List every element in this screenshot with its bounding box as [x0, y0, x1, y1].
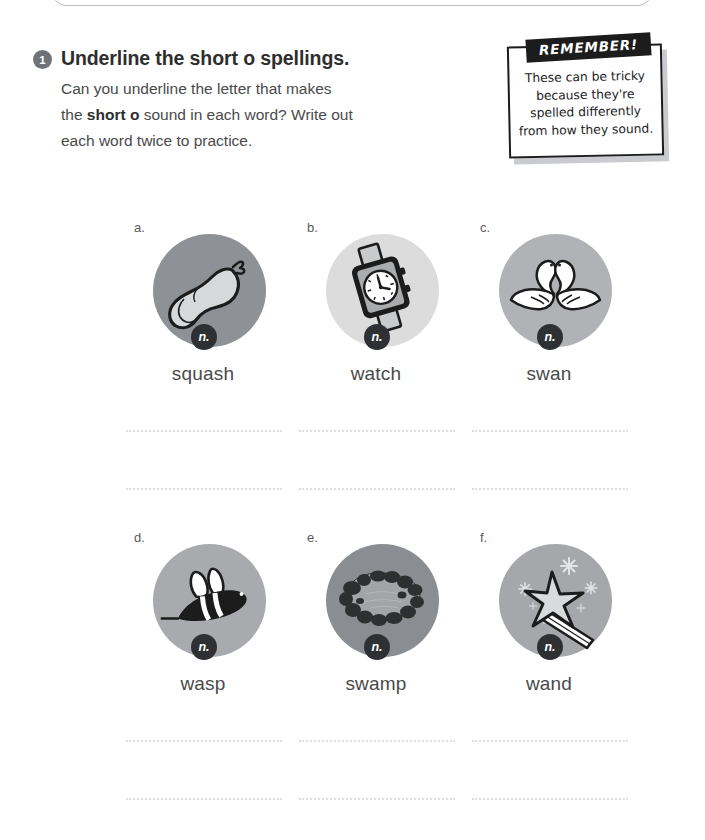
- question-number-badge: 1: [33, 50, 52, 69]
- part-of-speech-badge: n.: [537, 634, 563, 660]
- item-word-label: wasp: [103, 673, 303, 695]
- writing-line[interactable]: [299, 740, 455, 742]
- writing-lines-column-c: [472, 430, 632, 490]
- item-word-label: swan: [449, 363, 649, 385]
- item-word-label: wand: [449, 673, 649, 695]
- instruction-emphasis: short o: [87, 106, 140, 123]
- writing-line[interactable]: [126, 740, 282, 742]
- writing-line[interactable]: [472, 430, 628, 432]
- instruction-line-2-pre: the: [61, 106, 87, 123]
- page-title: Underline the short o spellings.: [61, 46, 349, 70]
- item-letter-a: a.: [134, 220, 145, 235]
- item-letter-e: e.: [307, 530, 318, 545]
- writing-lines-column-a: [126, 430, 286, 490]
- question-block: 1 Underline the short o spellings. Can y…: [33, 46, 463, 154]
- item-picture-wrap: n.: [449, 234, 649, 354]
- question-title-row: 1 Underline the short o spellings.: [33, 46, 463, 70]
- part-of-speech-badge: n.: [191, 324, 217, 350]
- item-picture-wrap: n.: [276, 544, 476, 664]
- writing-lines-column-d: [126, 740, 286, 800]
- item-letter-d: d.: [134, 530, 145, 545]
- item-picture-wrap: n.: [276, 234, 476, 354]
- item-letter-c: c.: [480, 220, 490, 235]
- writing-line[interactable]: [472, 488, 628, 490]
- writing-lines-column-b: [299, 430, 459, 490]
- writing-line[interactable]: [126, 430, 282, 432]
- part-of-speech-badge: n.: [364, 634, 390, 660]
- writing-line[interactable]: [299, 488, 455, 490]
- remember-line-1: These can be tricky: [511, 67, 658, 88]
- part-of-speech-badge: n.: [364, 324, 390, 350]
- question-instructions: Can you underline the letter that makes …: [61, 76, 463, 154]
- remember-line-4: from how they sound.: [512, 120, 659, 141]
- previous-section-box-edge: [52, 0, 652, 6]
- instruction-line-2-post: sound in each word? Write out: [139, 106, 352, 123]
- writing-line[interactable]: [299, 798, 455, 800]
- item-picture-wrap: n.: [103, 544, 303, 664]
- item-picture-wrap: n.: [449, 544, 649, 664]
- items-row-2: d. n. wasp e.: [0, 530, 705, 705]
- instruction-line-3: each word twice to practice.: [61, 132, 252, 149]
- item-word-label: squash: [103, 363, 303, 385]
- writing-lines-column-e: [299, 740, 459, 800]
- item-picture-wrap: n.: [103, 234, 303, 354]
- writing-line[interactable]: [472, 740, 628, 742]
- writing-line[interactable]: [126, 488, 282, 490]
- writing-lines-column-f: [472, 740, 632, 800]
- item-letter-f: f.: [480, 530, 487, 545]
- part-of-speech-badge: n.: [191, 634, 217, 660]
- item-letter-b: b.: [307, 220, 318, 235]
- writing-line[interactable]: [126, 798, 282, 800]
- writing-line[interactable]: [472, 798, 628, 800]
- part-of-speech-badge: n.: [537, 324, 563, 350]
- remember-callout-text: These can be tricky because they're spel…: [511, 67, 659, 140]
- items-row-1: a. n. squash b.: [0, 220, 705, 395]
- item-word-label: swamp: [276, 673, 476, 695]
- remember-callout: These can be tricky because they're spel…: [508, 45, 670, 165]
- item-word-label: watch: [276, 363, 476, 385]
- writing-line[interactable]: [299, 430, 455, 432]
- instruction-line-1: Can you underline the letter that makes: [61, 80, 332, 97]
